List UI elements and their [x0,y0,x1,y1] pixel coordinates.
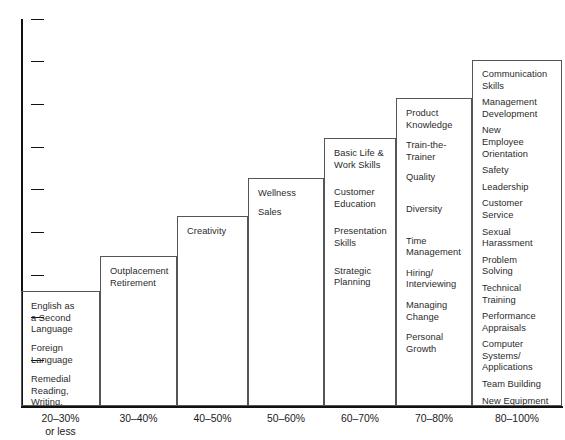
bar-topic: Team Building [482,379,561,391]
x-axis-label-1: 20–30% or less [21,413,100,438]
bars-layer: English as a Second Language Foreign Lan… [0,0,565,440]
bar-topic: Strategic Planning [334,266,395,289]
bar-topic: Retirement [110,278,176,290]
bar-topic: Outplacement [110,266,176,278]
x-axis-label-5: 60–70% [324,413,396,426]
bar-topic: Management Development [482,97,561,120]
bar-topic: Safety [482,165,561,177]
bar-topic: English as a Second Language [31,301,99,336]
bar-topic: Time Management [406,236,471,259]
bar-column-4: Wellness Sales [248,178,324,406]
bar-topic: New Equipment Operation [482,396,561,406]
bar-topic: Wellness [258,188,323,200]
bar-topic: Technical Training [482,283,561,306]
bar-topic: Product Knowledge [406,108,471,131]
x-axis-label-2: 30–40% [100,413,177,426]
bar-topic: Sales [258,207,323,219]
bar-topic: Performance Appraisals [482,311,561,334]
bar-topic: Problem Solving [482,255,561,278]
bar-topic: Diversity [406,204,471,216]
bar-topic: Creativity [187,226,247,238]
bar-column-1: English as a Second Language Foreign Lan… [21,291,100,406]
bar-column-2: Outplacement Retirement [100,256,177,406]
staircase-bar-chart: English as a Second Language Foreign Lan… [0,0,565,440]
bar-column-6: Product Knowledge Train-the- Trainer Qua… [396,98,472,406]
x-axis [21,406,563,408]
bar-topic: Communication Skills [482,69,561,92]
bar-topic: Customer Service [482,198,561,221]
x-axis-label-7: 80–100% [472,413,562,426]
bar-topic: Hiring/ Interviewing [406,268,471,291]
bar-column-5: Basic Life & Work Skills Customer Educat… [324,138,396,406]
bar-topic: Personal Growth [406,332,471,355]
x-axis-labels: 20–30% or less 30–40% 40–50% 50–60% 60–7… [0,410,565,440]
x-axis-label-6: 70–80% [396,413,472,426]
bar-topic: Basic Life & Work Skills [334,148,395,171]
bar-topic: Remedial Reading, Writing, Arithmetic [31,374,99,406]
bar-topic: Customer Education [334,187,395,210]
bar-topic: Computer Systems/ Applications [482,339,561,374]
bar-topic: Sexual Harassment [482,227,561,250]
x-axis-label-3: 40–50% [177,413,248,426]
bar-column-3: Creativity [177,216,248,406]
x-axis-label-4: 50–60% [248,413,324,426]
bar-column-7: Communication Skills Management Developm… [472,60,562,406]
bar-topic: Presentation Skills [334,226,395,249]
bar-topic: Quality [406,172,471,184]
bar-topic: New Employee Orientation [482,125,561,160]
bar-topic: Foreign Language [31,343,99,366]
bar-topic: Managing Change [406,300,471,323]
bar-topic: Leadership [482,182,561,194]
bar-topic: Train-the- Trainer [406,140,471,163]
